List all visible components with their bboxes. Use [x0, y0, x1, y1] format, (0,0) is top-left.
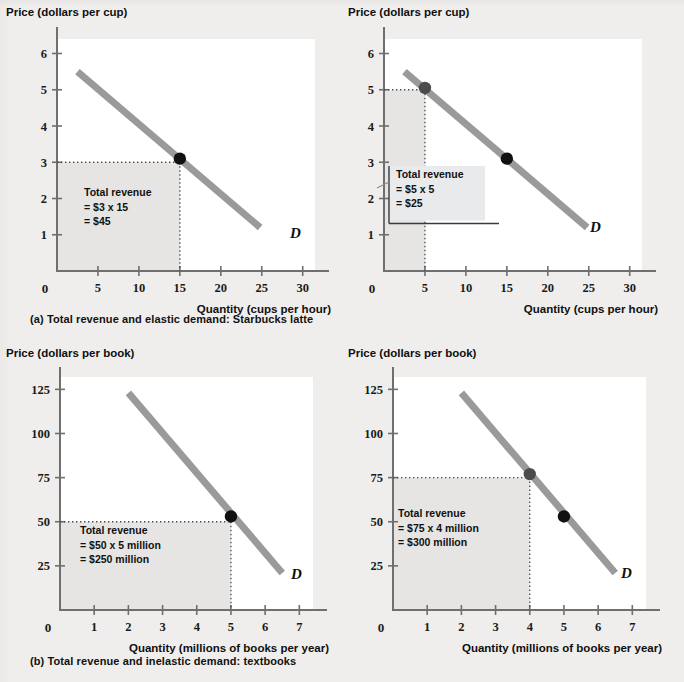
total-revenue-note-line: = $250 million — [80, 553, 149, 565]
origin-label: 0 — [369, 281, 376, 296]
x-axis-tick-label: 25 — [256, 281, 269, 295]
chart-svg-b-left: 25507510012512345670Price (dollars per b… — [0, 341, 342, 682]
x-axis-title: Quantity (cups per hour) — [524, 303, 658, 315]
y-axis-tick-label: 100 — [364, 427, 383, 441]
y-axis-tick-label: 6 — [41, 47, 47, 61]
origin-label: 0 — [378, 620, 385, 635]
chart-panel-a-right: 123456510152025300Price (dollars per cup… — [342, 0, 684, 341]
figure-total-revenue-and-elasticity: 123456510152025300Price (dollars per cup… — [0, 0, 684, 682]
demand-curve-label: D — [589, 219, 601, 235]
y-axis-title: Price (dollars per cup) — [348, 6, 470, 18]
chart-panel-a-left: 123456510152025300Price (dollars per cup… — [0, 0, 342, 341]
total-revenue-note-line: Total revenue — [84, 186, 152, 198]
x-axis-tick-label: 1 — [91, 620, 97, 634]
y-axis-tick-label: 5 — [368, 83, 374, 97]
origin-label: 0 — [42, 281, 49, 296]
y-axis-title: Price (dollars per book) — [348, 347, 477, 359]
chart-panel-b-left: 25507510012512345670Price (dollars per b… — [0, 341, 342, 682]
x-axis-tick-label: 1 — [424, 620, 430, 634]
total-revenue-note-line: Total revenue — [80, 524, 148, 536]
x-axis-tick-label: 5 — [422, 281, 428, 295]
y-axis-tick-label: 5 — [41, 83, 47, 97]
x-axis-tick-label: 5 — [561, 620, 567, 634]
demand-point-marker — [419, 82, 431, 94]
total-revenue-note-line: = $75 x 4 million — [398, 522, 479, 534]
total-revenue-note-line: = $5 x 5 — [396, 183, 434, 195]
y-axis-title: Price (dollars per cup) — [6, 6, 128, 18]
y-axis-tick-label: 6 — [368, 47, 374, 61]
chart-svg-a-left: 123456510152025300Price (dollars per cup… — [0, 0, 342, 341]
x-axis-title: Quantity (millions of books per year) — [129, 642, 329, 654]
total-revenue-note-line: Total revenue — [398, 507, 466, 519]
total-revenue-note-line: = $300 million — [398, 536, 467, 548]
y-axis-tick-label: 100 — [31, 427, 50, 441]
total-revenue-note-line: = $45 — [84, 215, 111, 227]
caption-panel-b: (b) Total revenue and inelastic demand: … — [30, 655, 296, 667]
x-axis-tick-label: 3 — [492, 620, 498, 634]
x-axis-tick-label: 30 — [296, 281, 309, 295]
x-axis-tick-label: 6 — [262, 620, 268, 634]
x-axis-tick-label: 15 — [501, 281, 514, 295]
y-axis-tick-label: 125 — [364, 383, 383, 397]
x-axis-tick-label: 10 — [460, 281, 473, 295]
y-axis-title: Price (dollars per book) — [6, 347, 135, 359]
demand-point-marker — [524, 468, 536, 480]
x-axis-tick-label: 10 — [133, 281, 146, 295]
x-axis-tick-label: 25 — [583, 281, 596, 295]
x-axis-tick-label: 7 — [629, 620, 635, 634]
caption-panel-a: (a) Total revenue and elastic demand: St… — [30, 313, 313, 325]
y-axis-tick-label: 75 — [371, 471, 384, 485]
x-axis-tick-label: 4 — [527, 620, 534, 634]
x-axis-title: Quantity (millions of books per year) — [462, 642, 662, 654]
demand-point-marker — [174, 152, 186, 164]
y-axis-tick-label: 3 — [41, 156, 47, 170]
chart-svg-b-right: 25507510012512345670Price (dollars per b… — [342, 341, 684, 682]
y-axis-tick-label: 4 — [41, 120, 48, 134]
y-axis-tick-label: 3 — [368, 156, 374, 170]
y-axis-tick-label: 50 — [371, 515, 384, 529]
y-axis-tick-label: 1 — [368, 228, 374, 242]
origin-label: 0 — [45, 620, 52, 635]
total-revenue-note-line: = $25 — [396, 197, 423, 209]
x-axis-tick-label: 20 — [542, 281, 555, 295]
y-axis-tick-label: 4 — [368, 120, 375, 134]
y-axis-tick-label: 2 — [368, 192, 374, 206]
demand-point-marker — [501, 152, 513, 164]
y-axis-tick-label: 125 — [31, 383, 50, 397]
y-axis-tick-label: 50 — [38, 515, 51, 529]
x-axis-tick-label: 7 — [296, 620, 302, 634]
x-axis-tick-label: 20 — [215, 281, 228, 295]
x-axis-tick-label: 6 — [595, 620, 601, 634]
demand-point-marker — [558, 510, 570, 522]
x-axis-tick-label: 5 — [95, 281, 101, 295]
total-revenue-note-line: Total revenue — [396, 168, 464, 180]
x-axis-tick-label: 5 — [228, 620, 234, 634]
demand-curve-label: D — [289, 225, 301, 241]
chart-svg-a-right: 123456510152025300Price (dollars per cup… — [342, 0, 684, 341]
y-axis-tick-label: 25 — [38, 559, 51, 573]
y-axis-tick-label: 2 — [41, 192, 47, 206]
demand-point-marker — [225, 510, 237, 522]
chart-panel-b-right: 25507510012512345670Price (dollars per b… — [342, 341, 684, 682]
x-axis-tick-label: 2 — [458, 620, 464, 634]
demand-curve-label: D — [290, 566, 302, 582]
demand-curve-label: D — [620, 565, 632, 581]
total-revenue-note-line: = $50 x 5 million — [80, 539, 161, 551]
x-axis-tick-label: 30 — [623, 281, 636, 295]
x-axis-tick-label: 2 — [125, 620, 131, 634]
x-axis-tick-label: 15 — [174, 281, 187, 295]
total-revenue-note-line: = $3 x 15 — [84, 201, 128, 213]
y-axis-tick-label: 75 — [38, 471, 51, 485]
x-axis-tick-label: 3 — [159, 620, 165, 634]
y-axis-tick-label: 1 — [41, 228, 47, 242]
y-axis-tick-label: 25 — [371, 559, 384, 573]
x-axis-tick-label: 4 — [194, 620, 201, 634]
total-revenue-shaded-area — [57, 162, 180, 271]
